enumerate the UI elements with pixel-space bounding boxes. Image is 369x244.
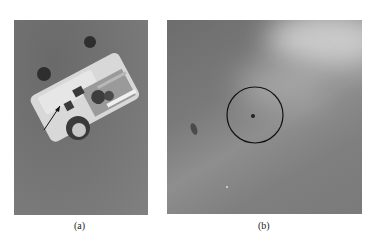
robot-illustration: [14, 20, 148, 215]
target-spot: [251, 114, 255, 118]
panel-a-label: (a): [74, 220, 85, 231]
panel-b-label: (b): [258, 220, 270, 231]
panel-b-image: [167, 20, 362, 214]
annotation-overlay: [167, 20, 362, 214]
highlight-circle: [227, 87, 283, 143]
panel-a-image: [14, 20, 148, 215]
